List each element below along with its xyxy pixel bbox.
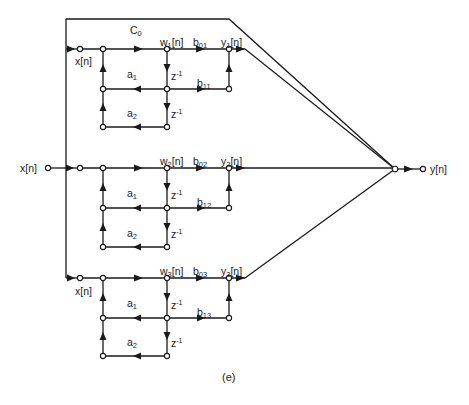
section-3-delay-2-label: z-1 xyxy=(171,337,182,349)
section-3-b1-label: b13 xyxy=(197,307,211,320)
arrow-icon xyxy=(66,165,74,172)
output-node xyxy=(420,166,425,171)
section-2-delay-1-label: z-1 xyxy=(171,189,182,201)
section-3-b0-label: b03 xyxy=(193,266,207,279)
figure-caption: (e) xyxy=(222,372,235,383)
input-label: x[n] xyxy=(20,163,37,174)
section-1-delay-2-label: z-1 xyxy=(171,108,182,120)
signal-flow-graph xyxy=(0,0,469,405)
section-2-b1-label: b12 xyxy=(197,197,211,210)
section-1 xyxy=(66,46,395,170)
section-3-state-label: w3[n] xyxy=(160,266,183,279)
section-1-b0-label: b01 xyxy=(193,37,207,50)
section-3-input-label: x[n] xyxy=(75,286,92,297)
section-3-a2-label: a2 xyxy=(127,337,137,350)
section-1-a2-label: a2 xyxy=(127,108,137,121)
section-3-delay-1-label: z-1 xyxy=(171,299,182,311)
section-2-delay-2-label: z-1 xyxy=(171,228,182,240)
section-2-a2-label: a2 xyxy=(127,228,137,241)
section-2-output-label: y2[n] xyxy=(221,156,242,169)
input-node xyxy=(45,165,50,170)
section-1-output-label: y1[n] xyxy=(221,37,242,50)
section-3-output-label: y3[n] xyxy=(221,266,242,279)
section-1-a1-label: a1 xyxy=(127,69,137,82)
output-label: y[n] xyxy=(430,164,447,175)
section-1-state-label: w1[n] xyxy=(160,37,183,50)
section-2-state-label: w2[n] xyxy=(160,156,183,169)
feedthrough-gain-label: C0 xyxy=(130,25,142,38)
section-2-b0-label: b02 xyxy=(193,156,207,169)
section-2-a1-label: a1 xyxy=(127,188,137,201)
section-1-b1-label: b11 xyxy=(197,78,211,91)
summing-node xyxy=(392,166,398,172)
section-1-delay-1-label: z-1 xyxy=(171,70,182,82)
section-1-input-label: x[n] xyxy=(75,56,92,67)
section-2 xyxy=(77,165,395,251)
section-3-a1-label: a1 xyxy=(127,298,137,311)
